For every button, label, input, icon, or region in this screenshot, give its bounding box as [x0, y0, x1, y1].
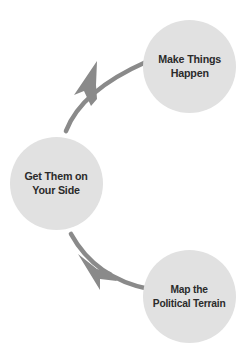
node-map-the-political-terrain-label: Map the Political Terrain: [151, 283, 228, 310]
node-get-them-on-your-side[interactable]: Get Them on Your Side: [10, 137, 103, 230]
node-map-the-political-terrain[interactable]: Map the Political Terrain: [143, 250, 236, 343]
node-make-things-happen[interactable]: Make Things Happen: [143, 20, 236, 113]
node-get-them-on-your-side-label: Get Them on Your Side: [21, 170, 92, 197]
diagram-canvas: Make Things Happen Get Them on Your Side…: [0, 0, 242, 352]
arrow-terrain-to-side-head: [78, 254, 117, 290]
arrow-side-to-happen: [66, 61, 146, 131]
arrow-side-to-happen-shaft: [66, 62, 146, 131]
arrow-terrain-to-side: [71, 234, 149, 290]
node-make-things-happen-label: Make Things Happen: [154, 53, 224, 80]
